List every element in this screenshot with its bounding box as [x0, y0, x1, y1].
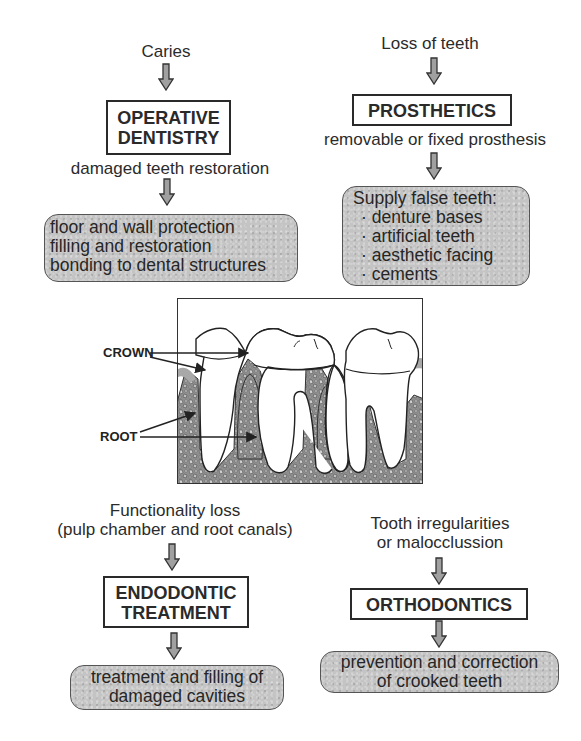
outcome-item: of crooked teeth: [321, 672, 558, 691]
orthodontics-title: ORTHODONTICS: [350, 588, 528, 620]
orthodontics-outcomes-box: prevention and correction of crooked tee…: [320, 651, 559, 693]
functionality-loss-label: Functionality loss (pulp chamber and roo…: [30, 501, 320, 539]
outcome-item: damaged cavities: [71, 687, 283, 706]
down-arrow-icon: [431, 620, 447, 648]
outcome-item: prevention and correction: [321, 653, 558, 672]
title-line: TREATMENT: [105, 603, 247, 623]
title-line: ORTHODONTICS: [352, 595, 526, 615]
cause-line: Tooth irregularities: [340, 514, 540, 533]
cause-line: (pulp chamber and root canals): [30, 520, 320, 539]
endodontic-outcomes-box: treatment and filling of damaged cavitie…: [70, 665, 284, 710]
down-arrow-icon: [166, 632, 182, 660]
down-arrow-icon: [431, 557, 447, 585]
label-pointer-lines: [0, 0, 581, 741]
title-line: ENDODONTIC: [105, 583, 247, 603]
tooth-irregularities-label: Tooth irregularities or malocclussion: [340, 514, 540, 552]
outcome-item: treatment and filling of: [71, 668, 283, 687]
cause-line: Functionality loss: [30, 501, 320, 520]
down-arrow-icon: [164, 543, 180, 571]
endodontic-treatment-title: ENDODONTIC TREATMENT: [103, 576, 249, 628]
cause-line: or malocclussion: [340, 533, 540, 552]
